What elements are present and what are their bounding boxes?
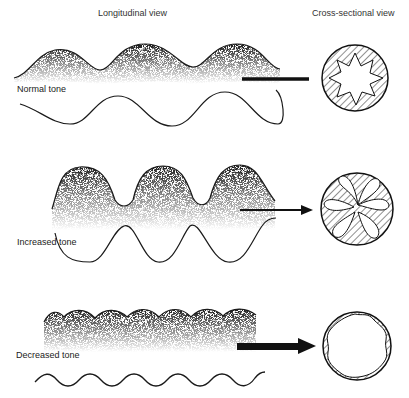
normal-tone-longitudinal xyxy=(14,44,309,126)
decreased-lower-wall xyxy=(35,372,265,386)
decreased-connector-arrowhead xyxy=(298,338,316,354)
decreased-tone-longitudinal xyxy=(35,309,316,386)
increased-stipple xyxy=(52,165,275,230)
increased-tone-longitudinal xyxy=(52,165,313,262)
normal-lower-wall xyxy=(20,90,283,126)
normal-cross-section xyxy=(322,45,388,111)
increased-cross-section xyxy=(321,173,393,245)
open-lumen xyxy=(327,314,386,377)
motility-diagram xyxy=(0,0,409,398)
decreased-cross-section xyxy=(323,312,391,380)
increased-connector-arrowhead xyxy=(301,205,313,215)
